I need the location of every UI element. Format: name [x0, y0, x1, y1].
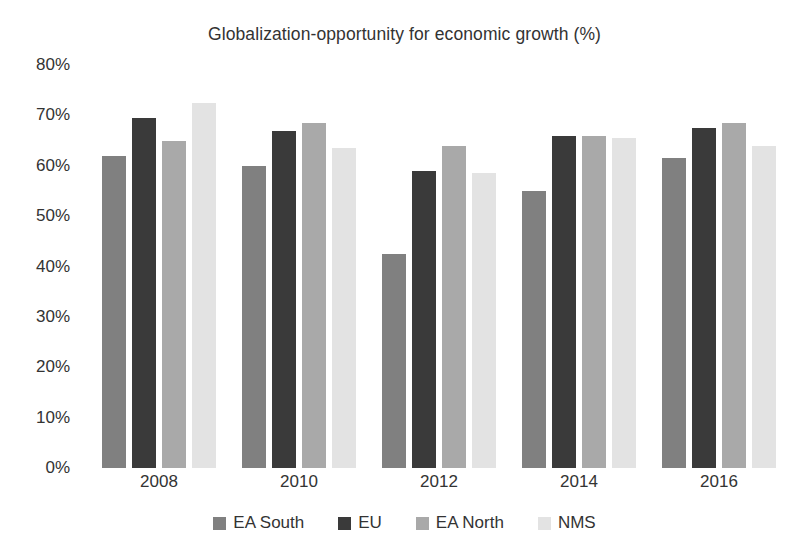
plot-area	[88, 65, 788, 468]
bar	[472, 173, 496, 468]
y-tick-label: 80%	[36, 55, 70, 75]
bar	[102, 156, 126, 468]
bar	[582, 136, 606, 468]
bar-group	[382, 65, 496, 468]
x-tick-label: 2010	[280, 472, 318, 492]
x-tick-label: 2012	[420, 472, 458, 492]
bar-group	[102, 65, 216, 468]
legend-label: EA South	[233, 513, 304, 533]
legend-swatch-icon	[338, 517, 351, 530]
chart-legend: EA SouthEUEA NorthNMS	[0, 508, 809, 538]
y-tick-label: 70%	[36, 105, 70, 125]
legend-label: EU	[358, 513, 382, 533]
y-tick-label: 0%	[45, 458, 70, 478]
y-tick-label: 60%	[36, 156, 70, 176]
bar	[302, 123, 326, 468]
y-tick-label: 40%	[36, 257, 70, 277]
bar	[132, 118, 156, 468]
bar	[552, 136, 576, 468]
y-tick-label: 10%	[36, 408, 70, 428]
y-tick-label: 20%	[36, 357, 70, 377]
bar	[412, 171, 436, 468]
bar	[752, 146, 776, 468]
x-tick-label: 2016	[700, 472, 738, 492]
chart-title: Globalization-opportunity for economic g…	[0, 24, 809, 45]
y-tick-label: 30%	[36, 307, 70, 327]
y-axis: 80%70%60%50%40%30%20%10%0%	[0, 65, 80, 468]
x-axis: 20082010201220142016	[88, 472, 788, 502]
bar	[272, 131, 296, 469]
x-tick-label: 2014	[560, 472, 598, 492]
bar	[522, 191, 546, 468]
bar	[242, 166, 266, 468]
x-tick-label: 2008	[140, 472, 178, 492]
legend-swatch-icon	[416, 517, 429, 530]
legend-label: NMS	[558, 513, 596, 533]
bar	[442, 146, 466, 468]
bar-group	[662, 65, 776, 468]
legend-swatch-icon	[538, 517, 551, 530]
y-tick-label: 50%	[36, 206, 70, 226]
bar	[332, 148, 356, 468]
bar-group	[522, 65, 636, 468]
bar	[382, 254, 406, 468]
bar	[662, 158, 686, 468]
legend-entry[interactable]: NMS	[538, 513, 596, 533]
legend-entry[interactable]: EU	[338, 513, 382, 533]
bar	[612, 138, 636, 468]
bar-group	[242, 65, 356, 468]
legend-swatch-icon	[213, 517, 226, 530]
bar	[692, 128, 716, 468]
legend-label: EA North	[436, 513, 504, 533]
bar-chart: Globalization-opportunity for economic g…	[0, 0, 809, 560]
legend-entry[interactable]: EA North	[416, 513, 504, 533]
bar	[162, 141, 186, 468]
bar	[192, 103, 216, 468]
legend-entry[interactable]: EA South	[213, 513, 304, 533]
bar	[722, 123, 746, 468]
